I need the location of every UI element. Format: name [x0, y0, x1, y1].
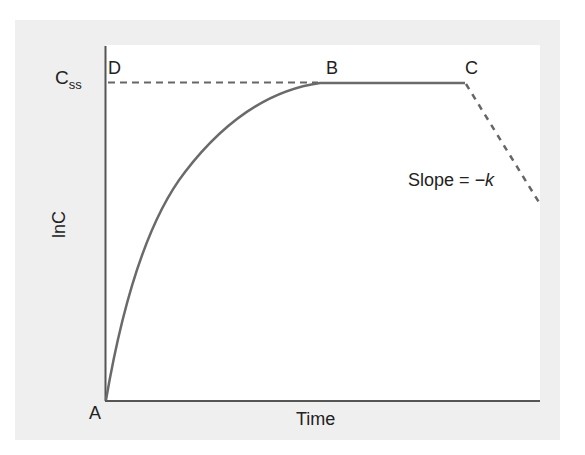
plot-graphics — [0, 0, 585, 455]
y-axis-label: lnC — [49, 211, 70, 238]
point-d-label: D — [108, 59, 121, 77]
point-a-label: A — [89, 404, 101, 422]
point-c-label: C — [465, 59, 478, 77]
x-axis-label: Time — [296, 410, 335, 428]
concentration-curve — [106, 83, 465, 400]
point-b-label: B — [326, 59, 338, 77]
css-label: Css — [55, 67, 82, 92]
slope-label: Slope = −k — [408, 170, 494, 191]
